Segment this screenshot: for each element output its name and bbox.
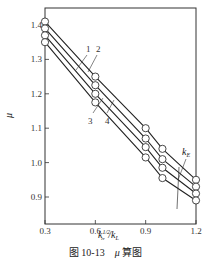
y-tick-label: 1.3 [31, 54, 43, 64]
plot-border [45, 8, 196, 224]
x-axis-label: k1/2α/kL [98, 229, 120, 240]
series-line-2 [41, 25, 199, 190]
series-line-1 [41, 18, 199, 183]
caption-text: 算图 [122, 247, 142, 258]
data-point-marker [159, 174, 166, 181]
data-point-marker [92, 82, 99, 89]
data-point-marker [192, 176, 199, 183]
plot-frame [45, 8, 196, 224]
figure-caption: 图 10-13 μ 算图 [0, 244, 211, 259]
data-point-marker [159, 156, 166, 163]
data-point-marker [41, 39, 48, 46]
y-axis-ticks: 0.91.01.11.21.31.4 [31, 20, 49, 202]
curve-label-2: 2 [96, 44, 101, 54]
data-series [41, 18, 199, 204]
data-point-marker [142, 144, 149, 151]
data-point-marker [159, 145, 166, 152]
data-point-marker [142, 135, 149, 142]
mu-chart: 0.91.01.11.21.31.4 0.30.60.91.2 1234kE μ… [0, 0, 211, 240]
figure-number: 图 10-13 [69, 247, 105, 258]
series-line-4 [41, 39, 199, 204]
data-point-marker [41, 25, 48, 32]
data-point-marker [192, 183, 199, 190]
x-tick-label: 0.9 [140, 226, 152, 236]
ke-label: kE [182, 146, 190, 158]
data-point-marker [142, 154, 149, 161]
data-point-marker [41, 32, 48, 39]
curve-label-1: 1 [86, 44, 91, 54]
x-axis-ticks: 0.30.60.91.2 [39, 220, 201, 236]
data-point-marker [92, 73, 99, 80]
y-tick-label: 1.2 [31, 89, 42, 99]
caption-symbol: μ [115, 247, 120, 258]
y-axis-label: μ [3, 113, 14, 119]
curve-label-3: 3 [88, 116, 93, 126]
y-tick-label: 0.9 [31, 192, 43, 202]
curve-label-4: 4 [105, 116, 110, 126]
data-point-marker [92, 99, 99, 106]
series-line-3 [41, 32, 199, 197]
annotations: 1234kE [76, 44, 190, 209]
y-tick-label: 1.4 [31, 20, 43, 30]
y-tick-label: 1.1 [31, 123, 42, 133]
data-point-marker [142, 125, 149, 132]
data-point-marker [159, 164, 166, 171]
data-point-marker [41, 18, 48, 25]
y-tick-label: 1.0 [31, 158, 43, 168]
data-point-marker [92, 90, 99, 97]
x-tick-label: 0.3 [39, 226, 51, 236]
x-tick-label: 1.2 [190, 226, 201, 236]
data-point-marker [192, 190, 199, 197]
data-point-marker [192, 197, 199, 204]
